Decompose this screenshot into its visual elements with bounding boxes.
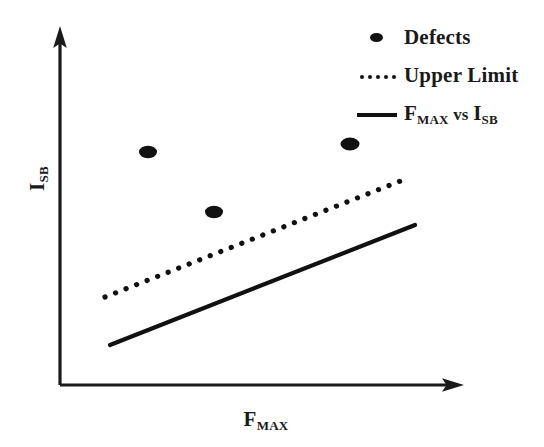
x-axis-label-base: F — [244, 407, 257, 431]
x-axis — [60, 378, 464, 392]
legend-label-i-subscript: SB — [482, 112, 498, 127]
x-axis-label: FMAX — [196, 409, 336, 430]
data-point — [341, 138, 360, 151]
legend-swatch-upper-limit — [352, 66, 400, 84]
upper-limit-series-line — [105, 180, 403, 297]
legend-item-fmax-vs-isb: FMAX vs ISB — [352, 94, 542, 132]
legend-label-i: I — [473, 101, 481, 125]
legend-swatch-defects — [352, 28, 400, 46]
y-axis-label-base: I — [25, 182, 49, 190]
fmax-vs-isb-series-line — [110, 225, 415, 345]
data-point — [139, 146, 157, 158]
legend-label-f-subscript: MAX — [417, 112, 449, 127]
y-axis-label-subscript: SB — [36, 166, 51, 182]
legend-label-defects: Defects — [404, 27, 471, 48]
defects-series-points — [139, 138, 360, 219]
legend-item-upper-limit: Upper Limit — [352, 56, 542, 94]
legend-label-vs-text: vs — [453, 105, 469, 124]
filled-ellipse-marker-icon — [370, 33, 383, 42]
chart-legend: Defects Upper Limit FMAX vs ISB — [352, 18, 542, 132]
legend-item-defects: Defects — [352, 18, 542, 56]
data-point — [205, 206, 223, 218]
y-axis-label: ISB — [27, 156, 48, 202]
legend-label-upper-limit: Upper Limit — [404, 65, 518, 86]
legend-label-fmax-vs-isb: FMAX vs ISB — [404, 103, 498, 124]
solid-line-icon — [357, 113, 397, 117]
y-axis — [53, 26, 67, 385]
legend-label-f: F — [404, 101, 417, 125]
chart-figure: ISB FMAX Defects Upper Limit FMAX vs ISB — [0, 0, 544, 447]
legend-swatch-fmax-vs-isb — [352, 104, 400, 122]
x-axis-label-subscript: MAX — [257, 418, 289, 433]
dotted-line-icon — [360, 75, 396, 79]
